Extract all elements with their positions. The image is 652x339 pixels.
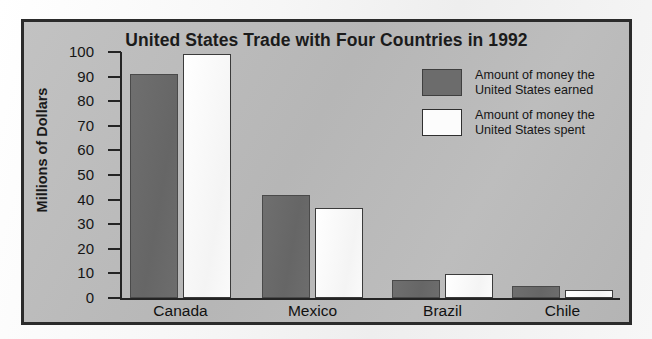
category-label-chile: Chile <box>494 302 631 320</box>
legend-swatch-spent-icon <box>422 109 462 136</box>
y-tick-label-0: 0 <box>54 290 94 305</box>
category-label-brazil: Brazil <box>374 302 511 320</box>
y-tick-label-10: 10 <box>54 265 94 280</box>
bar-mexico-spent <box>315 208 363 298</box>
y-tick-60 <box>108 149 121 151</box>
legend-label-earned-line1: Amount of money the <box>475 68 595 83</box>
legend-label-spent-line2: United States spent <box>475 123 595 138</box>
y-tick-30 <box>108 223 121 225</box>
y-tick-40 <box>108 199 121 201</box>
y-tick-10 <box>108 272 121 274</box>
category-label-mexico: Mexico <box>244 302 381 320</box>
y-tick-80 <box>108 100 121 102</box>
bar-canada-earned <box>130 74 178 298</box>
y-tick-label-70: 70 <box>54 118 94 133</box>
y-tick-0 <box>108 297 121 299</box>
legend-label-earned-line2: United States earned <box>475 83 595 98</box>
bar-mexico-earned <box>262 195 310 298</box>
x-axis-line <box>120 298 620 300</box>
bar-canada-spent <box>183 54 231 298</box>
chart-frame: United States Trade with Four Countries … <box>21 19 632 325</box>
chart-legend: Amount of money the United States earned… <box>422 68 622 147</box>
chart-title: United States Trade with Four Countries … <box>24 30 629 51</box>
y-axis-line <box>120 52 122 300</box>
bar-brazil-earned <box>392 280 440 298</box>
y-tick-50 <box>108 174 121 176</box>
category-label-canada: Canada <box>112 302 249 320</box>
y-axis-title: Millions of Dollars <box>34 70 50 230</box>
legend-swatch-earned-icon <box>422 69 462 96</box>
legend-item-earned: Amount of money the United States earned <box>422 68 622 99</box>
y-tick-label-30: 30 <box>54 216 94 231</box>
legend-item-spent: Amount of money the United States spent <box>422 108 622 139</box>
y-tick-label-100: 100 <box>54 44 94 59</box>
legend-label-spent: Amount of money the United States spent <box>475 108 595 139</box>
y-tick-label-40: 40 <box>54 192 94 207</box>
bar-chile-spent <box>565 290 613 298</box>
y-tick-70 <box>108 125 121 127</box>
bar-brazil-spent <box>445 274 493 298</box>
legend-label-spent-line1: Amount of money the <box>475 108 595 123</box>
y-tick-label-80: 80 <box>54 93 94 108</box>
y-tick-90 <box>108 76 121 78</box>
y-tick-label-20: 20 <box>54 241 94 256</box>
y-tick-label-50: 50 <box>54 167 94 182</box>
legend-label-earned: Amount of money the United States earned <box>475 68 595 99</box>
y-tick-100 <box>108 51 121 53</box>
y-tick-label-60: 60 <box>54 142 94 157</box>
y-tick-20 <box>108 248 121 250</box>
bar-chile-earned <box>512 286 560 298</box>
y-tick-label-90: 90 <box>54 69 94 84</box>
chart-page: United States Trade with Four Countries … <box>0 0 652 339</box>
